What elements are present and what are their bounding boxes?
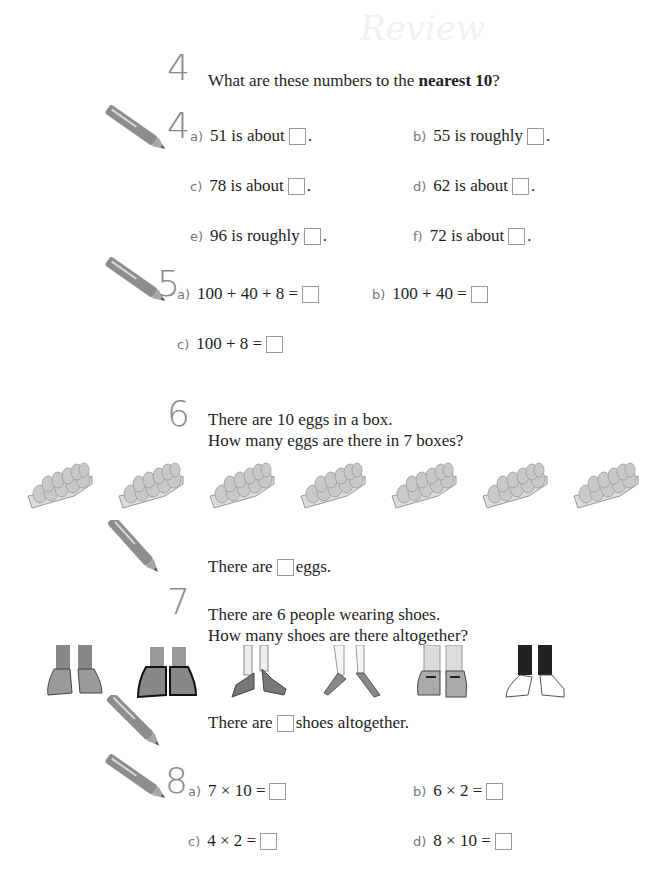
item-end: . (527, 226, 531, 246)
item-label: a) (177, 287, 190, 302)
q5-item-b: b) 100 + 40 = (372, 284, 490, 304)
item-end: . (531, 176, 535, 196)
answer-box[interactable] (508, 228, 525, 245)
prompt-end: ? (492, 71, 500, 90)
item-label: c) (177, 337, 189, 352)
prompt-bold: nearest 10 (419, 71, 493, 90)
egg-carton-icon (390, 462, 458, 512)
q8-item-b: b) 6 × 2 = (413, 781, 505, 801)
item-text: 55 is roughly (433, 126, 523, 146)
item-label: d) (413, 179, 426, 194)
egg-carton-icon (117, 462, 185, 512)
prompt-line-2: How many eggs are there in 7 boxes? (208, 430, 463, 451)
q6-answer: There are eggs. (208, 557, 331, 577)
item-text: 72 is about (430, 226, 505, 246)
item-text: 4 × 2 = (207, 831, 256, 851)
prompt-line-1: There are 10 eggs in a box. (208, 409, 463, 430)
item-label: b) (413, 129, 426, 144)
answer-box[interactable] (302, 286, 319, 303)
answer-box[interactable] (266, 336, 283, 353)
answer-box[interactable] (512, 178, 529, 195)
answer-box[interactable] (289, 128, 306, 145)
q8-item-a: a) 7 × 10 = (188, 781, 288, 801)
item-label: c) (188, 834, 200, 849)
egg-carton-icon (299, 462, 367, 512)
answer-box[interactable] (495, 833, 512, 850)
q4-item-b: b) 55 is roughly . (413, 126, 550, 146)
answer-box[interactable] (471, 286, 488, 303)
answer-box[interactable] (527, 128, 544, 145)
pencil-icon (97, 752, 175, 804)
item-label: e) (190, 229, 203, 244)
item-label: b) (372, 287, 385, 302)
shoes-icon (228, 645, 290, 705)
answer-box[interactable] (277, 559, 294, 576)
item-text: 51 is about (210, 126, 285, 146)
item-text: 7 × 10 = (208, 781, 265, 801)
question-number-7: 7 (167, 584, 190, 620)
q4-item-d: d) 62 is about . (413, 176, 535, 196)
egg-carton-icon (208, 462, 276, 512)
answer-box[interactable] (277, 715, 294, 732)
item-end: . (307, 176, 311, 196)
item-end: . (308, 126, 312, 146)
item-end: . (323, 226, 327, 246)
prompt-line-2: How many shoes are there altogether? (208, 625, 468, 646)
item-text: 100 + 8 = (196, 334, 262, 354)
answer-box[interactable] (269, 783, 286, 800)
question-number-4b: 4 (167, 108, 190, 144)
q5-item-c: c) 100 + 8 = (177, 334, 285, 354)
item-text: 96 is roughly (210, 226, 300, 246)
q4-item-f: f) 72 is about . (413, 226, 532, 246)
item-label: d) (413, 834, 426, 849)
q4-item-a: a) 51 is about . (190, 126, 312, 146)
egg-carton-icon (26, 462, 94, 512)
item-text: 6 × 2 = (433, 781, 482, 801)
item-text: 62 is about (433, 176, 508, 196)
answer-box[interactable] (486, 783, 503, 800)
faint-header-title: Review (360, 8, 485, 48)
pencil-icon (97, 103, 175, 155)
answer-pre: There are (208, 557, 273, 577)
prompt-line-1: There are 6 people wearing shoes. (208, 604, 468, 625)
question-6-prompt: There are 10 eggs in a box. How many egg… (208, 409, 463, 451)
q8-item-c: c) 4 × 2 = (188, 831, 279, 851)
question-7-prompt: There are 6 people wearing shoes. How ma… (208, 604, 468, 646)
item-text: 78 is about (209, 176, 284, 196)
answer-box[interactable] (304, 228, 321, 245)
q7-answer: There are shoes altogether. (208, 713, 409, 733)
pencil-icon (95, 695, 173, 747)
egg-carton-icon (572, 462, 640, 512)
item-label: c) (190, 179, 202, 194)
egg-carton-icon (481, 462, 549, 512)
answer-box[interactable] (260, 833, 277, 850)
answer-box[interactable] (288, 178, 305, 195)
item-label: f) (413, 229, 423, 244)
answer-pre: There are (208, 713, 273, 733)
item-text: 100 + 40 = (392, 284, 466, 304)
item-end: . (546, 126, 550, 146)
q4-item-e: e) 96 is roughly . (190, 226, 327, 246)
shoes-icon (412, 645, 474, 705)
item-text: 100 + 40 + 8 = (197, 284, 298, 304)
question-4-prompt: What are these numbers to the nearest 10… (208, 70, 500, 91)
answer-post: shoes altogether. (296, 713, 409, 733)
egg-carton-row (26, 462, 640, 512)
item-label: b) (413, 784, 426, 799)
question-number-6: 6 (167, 396, 190, 432)
q5-item-a: a) 100 + 40 + 8 = (177, 284, 321, 304)
item-text: 8 × 10 = (433, 831, 490, 851)
pencil-icon (95, 520, 173, 572)
answer-post: eggs. (296, 557, 331, 577)
shoes-icon (320, 645, 382, 705)
shoes-icon (504, 645, 566, 705)
item-label: a) (188, 784, 201, 799)
question-number-4: 4 (167, 50, 190, 86)
item-label: a) (190, 129, 203, 144)
q8-item-d: d) 8 × 10 = (413, 831, 514, 851)
question-number-8: 8 (165, 763, 188, 799)
q4-item-c: c) 78 is about . (190, 176, 311, 196)
prompt-text: What are these numbers to the (208, 71, 419, 90)
